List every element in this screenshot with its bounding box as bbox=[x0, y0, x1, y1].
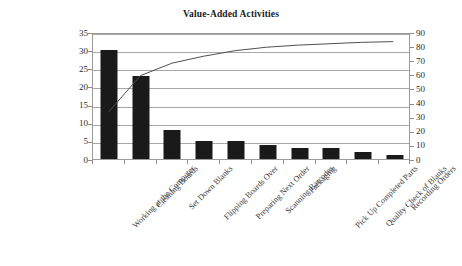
right-axis-tick-label: 10 bbox=[416, 141, 446, 150]
right-axis-tick-label: 80 bbox=[416, 43, 446, 52]
left-axis-tick-mark bbox=[88, 142, 92, 143]
x-axis-category-labels: Working at the ComputerCleaning BoardsSe… bbox=[0, 164, 462, 266]
y-axis-right: 0102030405060708090 bbox=[416, 33, 446, 160]
pareto-chart: Value-Added Activities 05101520253035 01… bbox=[0, 0, 462, 266]
right-axis-tick-mark bbox=[410, 89, 414, 90]
right-axis-tick-mark bbox=[410, 75, 414, 76]
left-axis-tick-mark bbox=[88, 87, 92, 88]
cumulative-line-layer bbox=[93, 34, 409, 159]
right-axis-tick-mark bbox=[410, 47, 414, 48]
cumulative-line bbox=[109, 42, 393, 112]
right-axis-tick-label: 40 bbox=[416, 99, 446, 108]
chart-title: Value-Added Activities bbox=[0, 9, 462, 19]
left-axis-tick-mark bbox=[88, 124, 92, 125]
right-axis-tick-label: 70 bbox=[416, 57, 446, 66]
right-axis-tick-mark bbox=[410, 146, 414, 147]
left-axis-tick-label: 25 bbox=[58, 65, 88, 74]
y-axis-left: 05101520253035 bbox=[58, 33, 88, 160]
left-axis-tick-label: 30 bbox=[58, 47, 88, 56]
left-axis-tick-label: 35 bbox=[58, 29, 88, 38]
left-axis-ticks bbox=[88, 33, 92, 160]
right-axis-tick-mark bbox=[410, 118, 414, 119]
right-axis-tick-label: 90 bbox=[416, 29, 446, 38]
left-axis-tick-mark bbox=[88, 106, 92, 107]
left-axis-tick-mark bbox=[88, 69, 92, 70]
left-axis-tick-label: 15 bbox=[58, 101, 88, 110]
right-axis-tick-mark bbox=[410, 160, 414, 161]
right-axis-tick-label: 60 bbox=[416, 71, 446, 80]
right-axis-tick-label: 30 bbox=[416, 113, 446, 122]
right-axis-tick-mark bbox=[410, 61, 414, 62]
left-axis-tick-label: 20 bbox=[58, 83, 88, 92]
right-axis-tick-mark bbox=[410, 33, 414, 34]
right-axis-ticks bbox=[410, 33, 414, 160]
x-axis-category-label: Quality Check of Blanks bbox=[384, 164, 449, 229]
left-axis-tick-label: 5 bbox=[58, 137, 88, 146]
left-axis-tick-mark bbox=[88, 51, 92, 52]
right-axis-tick-mark bbox=[410, 132, 414, 133]
left-axis-tick-label: 10 bbox=[58, 119, 88, 128]
right-axis-tick-mark bbox=[410, 104, 414, 105]
plot-area bbox=[92, 33, 410, 160]
right-axis-tick-label: 20 bbox=[416, 127, 446, 136]
right-axis-tick-label: 50 bbox=[416, 85, 446, 94]
x-axis-category-label: Packaging bbox=[307, 164, 338, 195]
left-axis-tick-mark bbox=[88, 33, 92, 34]
